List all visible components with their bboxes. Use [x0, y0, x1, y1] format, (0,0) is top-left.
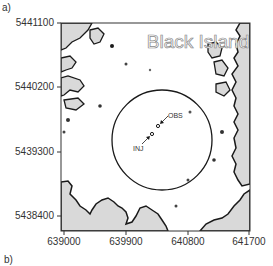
obs-well-marker[interactable]: [156, 124, 159, 127]
map-title: Black Island: [147, 31, 249, 52]
map-plot: Black Island OBS INJ: [0, 0, 273, 266]
inj-well-marker[interactable]: [150, 132, 153, 135]
obs-label: OBS: [168, 112, 183, 119]
inj-label: INJ: [133, 145, 144, 152]
map-content: Black Island OBS INJ: [61, 23, 250, 231]
